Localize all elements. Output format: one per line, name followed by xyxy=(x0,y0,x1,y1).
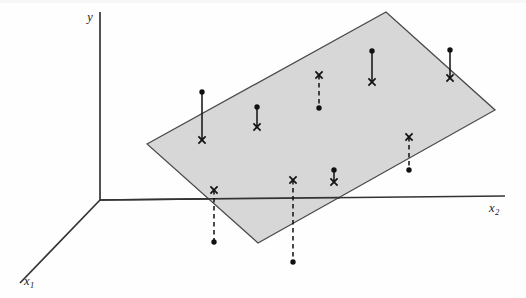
y-axis-label: y xyxy=(85,10,93,24)
observed-value-dot xyxy=(211,239,216,244)
observed-value-dot xyxy=(447,47,452,52)
x2-axis-label-base: x xyxy=(488,201,495,215)
observed-value-dot xyxy=(369,48,374,53)
x1-axis-label-subscript: 1 xyxy=(30,280,34,290)
observed-value-dot xyxy=(199,89,204,94)
observed-value-dot xyxy=(406,167,411,172)
observed-value-dot xyxy=(290,259,295,264)
regression-plane-figure: y x2 x1 xyxy=(0,0,526,298)
observed-value-dot xyxy=(254,104,259,109)
observed-value-dot xyxy=(316,105,321,110)
x1-axis-label-base: x xyxy=(23,274,30,288)
observed-value-dot xyxy=(331,167,336,172)
scan-artifact-band xyxy=(0,0,526,3)
figure-canvas: y x2 x1 xyxy=(0,0,526,298)
